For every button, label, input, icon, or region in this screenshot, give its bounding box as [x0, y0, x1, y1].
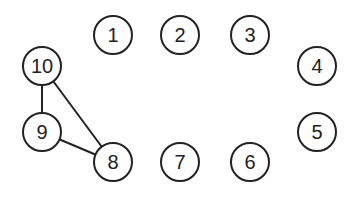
node-2: 2	[161, 16, 199, 54]
node-label: 3	[244, 24, 255, 46]
node-5: 5	[298, 113, 336, 151]
node-label: 9	[36, 121, 47, 143]
node-label: 1	[107, 24, 118, 46]
node-label: 7	[174, 151, 185, 173]
node-7: 7	[161, 143, 199, 181]
node-label: 5	[311, 121, 322, 143]
node-6: 6	[231, 143, 269, 181]
node-10: 10	[23, 47, 61, 85]
node-label: 2	[174, 24, 185, 46]
node-label: 8	[107, 151, 118, 173]
node-label: 10	[31, 55, 53, 77]
node-label: 4	[311, 55, 322, 77]
node-4: 4	[298, 47, 336, 85]
node-8: 8	[94, 143, 132, 181]
node-9: 9	[23, 113, 61, 151]
graph-diagram: 12345678910	[0, 0, 354, 197]
node-1: 1	[94, 16, 132, 54]
node-label: 6	[244, 151, 255, 173]
node-3: 3	[231, 16, 269, 54]
nodes: 12345678910	[23, 16, 336, 181]
